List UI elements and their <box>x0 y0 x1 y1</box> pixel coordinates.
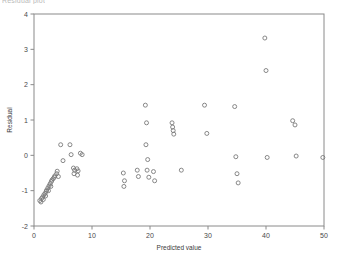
data-point <box>233 105 237 109</box>
axis-ticks <box>31 14 325 230</box>
data-point <box>121 171 125 175</box>
data-point <box>143 103 147 107</box>
x-tick-label: 50 <box>320 232 328 239</box>
data-point <box>55 169 59 173</box>
data-point <box>146 158 150 162</box>
data-point <box>76 173 80 177</box>
data-point <box>69 153 73 157</box>
y-tick-label: 0 <box>24 152 28 159</box>
y-tick-label: -1 <box>22 187 28 194</box>
data-point <box>205 131 209 135</box>
data-point <box>147 175 151 179</box>
data-point <box>151 170 155 174</box>
data-point <box>153 179 157 183</box>
data-point <box>135 168 139 172</box>
x-tick-label: 0 <box>32 232 36 239</box>
plot-frame <box>34 14 324 226</box>
data-point <box>179 168 183 172</box>
axis-tick-labels: 01020304050-2-101234 <box>22 11 328 239</box>
y-tick-label: 2 <box>24 81 28 88</box>
data-point <box>264 69 268 73</box>
data-point <box>68 143 72 147</box>
y-tick-label: 4 <box>24 11 28 18</box>
x-tick-label: 20 <box>146 232 154 239</box>
scatter-chart: 01020304050-2-101234 Predicted valueResi… <box>0 0 340 259</box>
data-point <box>294 154 298 158</box>
x-tick-label: 30 <box>204 232 212 239</box>
x-tick-label: 40 <box>262 232 270 239</box>
x-axis-title: Predicted value <box>157 244 202 251</box>
data-point <box>59 143 63 147</box>
data-point <box>122 184 126 188</box>
data-point <box>203 103 207 107</box>
data-point <box>145 121 149 125</box>
data-point <box>61 159 65 163</box>
data-point <box>293 123 297 127</box>
data-point <box>144 143 148 147</box>
data-point <box>136 175 140 179</box>
data-point <box>234 155 238 159</box>
residual-plot-figure: Residual plot 01020304050-2-101234 Predi… <box>0 0 340 259</box>
data-point <box>265 155 269 159</box>
data-point <box>236 181 240 185</box>
data-point <box>263 36 267 40</box>
data-point <box>235 172 239 176</box>
y-axis-title: Residual <box>6 107 13 133</box>
data-points <box>38 36 325 204</box>
y-tick-label: 1 <box>24 117 28 124</box>
data-point <box>170 121 174 125</box>
data-point <box>145 168 149 172</box>
data-point <box>122 179 126 183</box>
y-tick-label: -2 <box>22 223 28 230</box>
data-point <box>291 119 295 123</box>
y-tick-label: 3 <box>24 46 28 53</box>
x-tick-label: 10 <box>88 232 96 239</box>
